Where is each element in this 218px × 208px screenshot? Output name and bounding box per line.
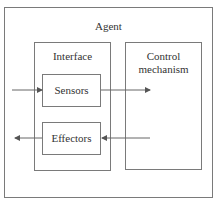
arrows-layer — [0, 0, 218, 208]
